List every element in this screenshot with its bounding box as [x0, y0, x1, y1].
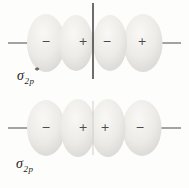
lobe-sign: + — [98, 121, 112, 135]
orbital-sigma2p: − + + − σ2p — [0, 94, 189, 188]
lobe-sign: − — [39, 35, 53, 49]
orbital-label-sigma2p: σ2p — [16, 156, 33, 172]
lobe-sign: − — [100, 35, 114, 49]
orbital-label-sigma2p-star: σ2p* — [17, 68, 40, 84]
orbital-subscript: 2p — [23, 164, 33, 174]
lobe-sign: − — [133, 121, 147, 135]
antibonding-asterisk: * — [34, 65, 40, 76]
orbital-subscript: 2p — [24, 76, 34, 86]
orbital-sigma2p-star: − + − + σ2p* — [0, 0, 189, 94]
orbital-drawing-bonding — [0, 94, 189, 188]
lobe-sign: + — [135, 35, 149, 49]
mo-diagram: − + − + σ2p* − + + − σ2p — [0, 0, 189, 188]
lobe-sign: − — [39, 121, 53, 135]
lobe-sign: + — [76, 35, 90, 49]
lobe-sign: + — [76, 121, 90, 135]
